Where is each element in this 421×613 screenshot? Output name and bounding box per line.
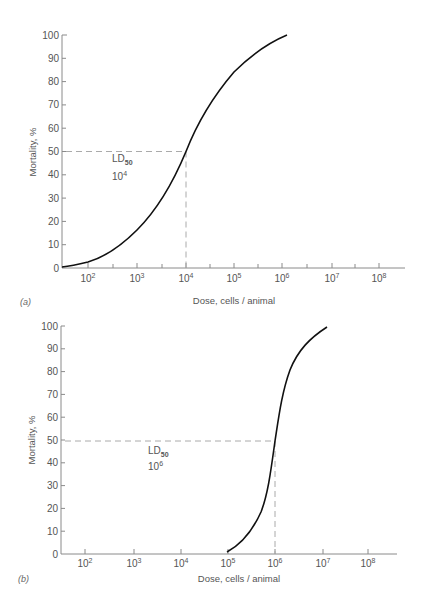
svg-text:0: 0 (52, 549, 58, 560)
mortality-curve-b (227, 327, 327, 552)
ld50-reference-a (66, 152, 186, 269)
svg-text:107: 107 (315, 557, 330, 569)
x-axis-title-b: Dose, cells / animal (198, 573, 280, 584)
svg-text:80: 80 (48, 76, 60, 87)
svg-text:103: 103 (129, 272, 144, 284)
y-ticks-b (61, 349, 65, 531)
svg-text:105: 105 (226, 272, 241, 284)
y-axis-title-a: Mortality, % (27, 127, 38, 176)
x-ticks-b (85, 549, 368, 554)
svg-text:20: 20 (47, 503, 59, 514)
svg-text:100: 100 (41, 321, 58, 332)
y-ticks-a (62, 58, 66, 244)
svg-text:90: 90 (48, 53, 60, 64)
x-ticks-a (88, 263, 379, 268)
y-tick-labels-b: 0 10 20 30 40 50 60 70 80 90 100 (41, 321, 58, 560)
svg-text:108: 108 (371, 272, 386, 284)
panel-label-b: (b) (18, 574, 29, 584)
ld50-reference-b (65, 441, 275, 554)
svg-text:108: 108 (360, 557, 375, 569)
mortality-curve-a (62, 35, 287, 267)
svg-text:104: 104 (173, 557, 188, 569)
svg-text:105: 105 (220, 557, 235, 569)
svg-text:40: 40 (48, 169, 60, 180)
figure: 0 10 20 30 40 50 60 70 80 90 100 (0, 0, 421, 613)
svg-text:80: 80 (47, 366, 59, 377)
svg-text:103: 103 (126, 557, 141, 569)
svg-text:70: 70 (47, 389, 59, 400)
svg-text:50: 50 (48, 146, 60, 157)
ld50-value-b: 106 (148, 460, 163, 472)
svg-text:30: 30 (47, 480, 59, 491)
chart-a: 0 10 20 30 40 50 60 70 80 90 100 (20, 30, 405, 308)
svg-text:90: 90 (47, 343, 59, 354)
svg-text:102: 102 (77, 557, 92, 569)
svg-text:60: 60 (48, 123, 60, 134)
x-tick-labels-a: 102 103 104 105 106 107 108 (80, 272, 386, 284)
svg-text:60: 60 (47, 412, 59, 423)
svg-text:20: 20 (48, 216, 60, 227)
svg-text:50: 50 (47, 435, 59, 446)
svg-text:106: 106 (267, 557, 282, 569)
ld50-label-a: LD50 (112, 153, 133, 166)
svg-text:102: 102 (80, 272, 95, 284)
ld50-label-b: LD50 (148, 445, 169, 458)
svg-text:106: 106 (274, 272, 289, 284)
svg-text:10: 10 (47, 526, 59, 537)
x-axis-title-a: Dose, cells / animal (193, 295, 275, 306)
x-tick-labels-b: 102 103 104 105 106 107 108 (77, 557, 375, 569)
y-axis-title-b: Mortality, % (26, 415, 37, 464)
svg-text:70: 70 (48, 99, 60, 110)
panel-label-a: (a) (20, 297, 31, 307)
svg-text:40: 40 (47, 457, 59, 468)
svg-text:10: 10 (48, 239, 60, 250)
svg-text:100: 100 (42, 30, 59, 41)
svg-text:0: 0 (53, 263, 59, 274)
svg-text:107: 107 (324, 272, 339, 284)
svg-text:104: 104 (178, 272, 193, 284)
y-tick-labels-a: 0 10 20 30 40 50 60 70 80 90 100 (42, 30, 59, 274)
ld50-value-a: 104 (112, 170, 127, 182)
chart-b: 0 10 20 30 40 50 60 70 80 90 100 102 103… (18, 321, 397, 585)
svg-text:30: 30 (48, 193, 60, 204)
